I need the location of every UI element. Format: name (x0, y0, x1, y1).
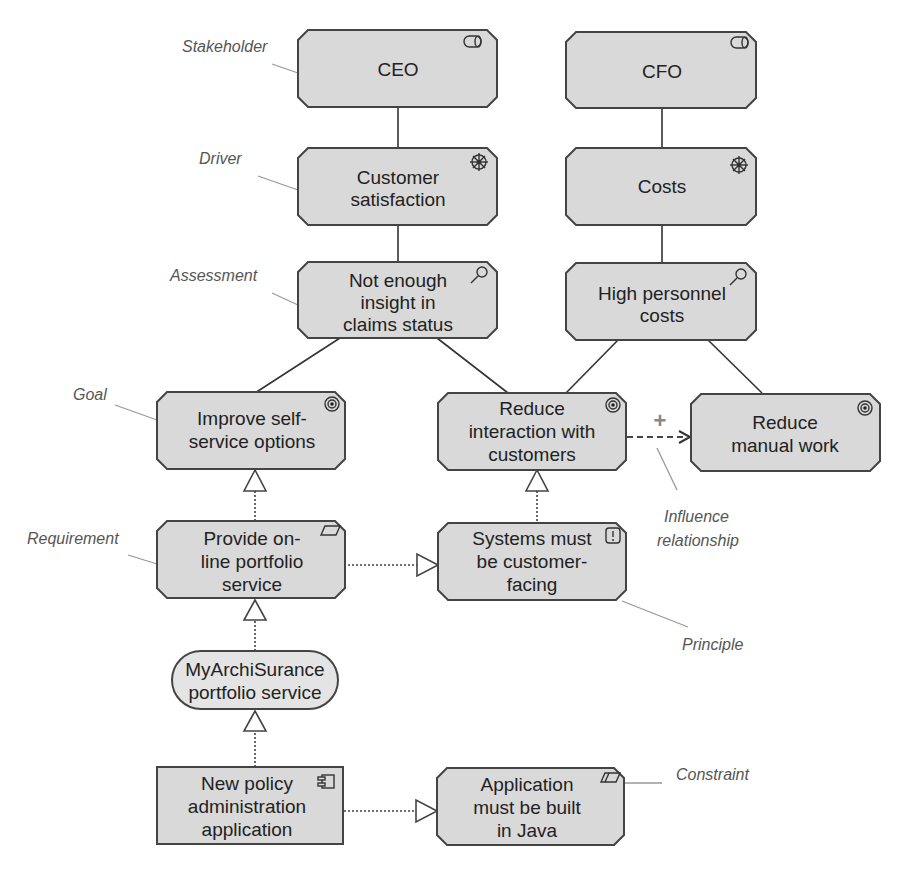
influence-sign: + (654, 408, 667, 433)
node-application-java-line1: Application (481, 774, 574, 795)
association-insight-reduce-interaction[interactable] (437, 338, 508, 393)
annotation-requirement: Requirement (27, 530, 119, 547)
association-personnel-reduce-interaction[interactable] (566, 338, 620, 393)
node-myarchisurance-service-line2: portfolio service (188, 682, 321, 703)
node-high-personnel-costs-line1: High personnel (598, 283, 726, 304)
node-customer-satisfaction-line1: Customer (357, 167, 440, 188)
node-high-personnel-costs[interactable]: High personnel costs (566, 263, 756, 340)
node-systems-customer-facing-line3: facing (507, 574, 558, 595)
node-provide-online-portfolio-line1: Provide on- (203, 528, 300, 549)
node-systems-customer-facing[interactable]: Systems must be customer- facing (438, 523, 626, 600)
realization-provide-to-improve[interactable] (244, 470, 266, 521)
node-application-java-line3: in Java (497, 820, 558, 841)
node-reduce-interaction-line3: customers (488, 444, 576, 465)
node-reduce-interaction[interactable]: Reduce interaction with customers (438, 393, 626, 470)
node-ceo-label: CEO (377, 59, 418, 80)
node-new-policy-admin-app-line3: application (202, 819, 293, 840)
node-myarchisurance-service-line1: MyArchiSurance (185, 659, 324, 680)
node-cfo-label: CFO (642, 61, 682, 82)
association-insight-improve-self-service[interactable] (255, 338, 340, 393)
node-not-enough-insight[interactable]: Not enough insight in claims status (298, 262, 497, 338)
node-provide-online-portfolio-line2: line portfolio (201, 551, 303, 572)
node-application-java-line2: must be built (473, 797, 581, 818)
annotation-principle: Principle (682, 636, 743, 653)
node-myarchisurance-service[interactable]: MyArchiSurance portfolio service (172, 651, 338, 709)
diagram-canvas: + (0, 0, 902, 871)
realization-app-to-constraint[interactable] (344, 800, 437, 822)
node-systems-customer-facing-line1: Systems must (472, 528, 592, 549)
node-costs[interactable]: Costs (566, 148, 756, 225)
annotation-influence-line2: relationship (657, 532, 739, 549)
annotation-stakeholder: Stakeholder (182, 38, 268, 55)
annotation-influence-line1: Influence (664, 508, 729, 525)
node-not-enough-insight-line1: Not enough (349, 270, 447, 291)
realization-app-to-service[interactable] (244, 711, 266, 767)
node-provide-online-portfolio-line3: service (222, 574, 282, 595)
node-new-policy-admin-app-line1: New policy (201, 773, 293, 794)
influence-relationship[interactable]: + (627, 408, 690, 443)
annotation-driver: Driver (199, 150, 242, 167)
node-not-enough-insight-line2: insight in (361, 292, 436, 313)
node-ceo[interactable]: CEO (298, 30, 497, 107)
node-provide-online-portfolio[interactable]: Provide on- line portfolio service (157, 521, 345, 598)
node-reduce-manual-work-line2: manual work (731, 435, 839, 456)
node-high-personnel-costs-line2: costs (640, 305, 684, 326)
node-application-java[interactable]: Application must be built in Java (437, 768, 624, 845)
node-improve-self-service-line2: service options (189, 431, 316, 452)
node-costs-label: Costs (638, 176, 687, 197)
node-not-enough-insight-line3: claims status (343, 314, 453, 335)
node-customer-satisfaction[interactable]: Customer satisfaction (298, 148, 497, 225)
realization-provide-to-systems[interactable] (344, 554, 438, 576)
annotation-assessment: Assessment (169, 267, 258, 284)
node-new-policy-admin-app-line2: administration (188, 796, 306, 817)
realization-service-to-provide[interactable] (244, 600, 266, 651)
node-cfo[interactable]: CFO (566, 32, 756, 108)
annotation-constraint: Constraint (676, 766, 749, 783)
node-reduce-interaction-line1: Reduce (499, 398, 565, 419)
node-customer-satisfaction-line2: satisfaction (350, 189, 445, 210)
node-reduce-manual-work[interactable]: Reduce manual work (691, 394, 880, 471)
association-personnel-reduce-manual-work[interactable] (706, 338, 762, 393)
node-improve-self-service[interactable]: Improve self- service options (157, 392, 345, 469)
node-reduce-interaction-line2: interaction with (469, 421, 596, 442)
node-new-policy-admin-app[interactable]: New policy administration application (157, 767, 343, 844)
node-improve-self-service-line1: Improve self- (197, 408, 307, 429)
realization-systems-to-reduce-interaction[interactable] (526, 470, 548, 521)
node-reduce-manual-work-line1: Reduce (752, 412, 818, 433)
node-systems-customer-facing-line2: be customer- (477, 551, 588, 572)
annotation-goal: Goal (73, 386, 107, 403)
